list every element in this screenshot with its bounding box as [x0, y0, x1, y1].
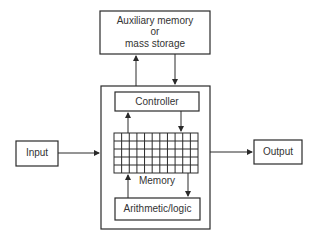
- memory-grid-frame: [114, 133, 198, 173]
- controller-label: Controller: [135, 96, 179, 107]
- input-node: Input: [16, 141, 58, 166]
- memory-label: Memory: [139, 175, 175, 186]
- arithmetic-logic-node: Arithmetic/logic: [115, 198, 200, 220]
- output-label: Output: [263, 146, 293, 157]
- memory-grid: [114, 133, 198, 173]
- aux-memory-label-line3: mass storage: [125, 38, 185, 49]
- output-node: Output: [254, 140, 302, 164]
- computer-architecture-diagram: Auxiliary memory or mass storage Control…: [0, 0, 316, 243]
- aux-memory-node: Auxiliary memory or mass storage: [100, 11, 210, 54]
- aux-memory-label-line1: Auxiliary memory: [117, 15, 194, 26]
- arithmetic-logic-label: Arithmetic/logic: [124, 203, 192, 214]
- input-label: Input: [26, 147, 48, 158]
- controller-node: Controller: [115, 92, 199, 111]
- aux-memory-label-line2: or: [151, 26, 161, 37]
